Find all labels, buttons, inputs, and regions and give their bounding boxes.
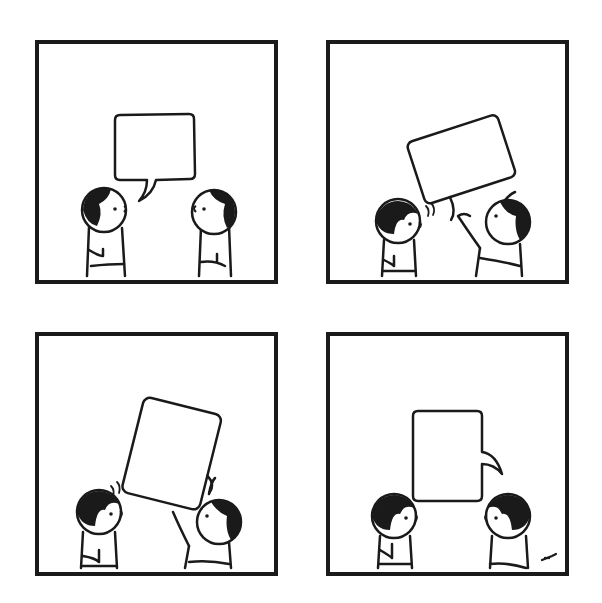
panel-4-art: artist signature mark (bottom-right of p… [330, 336, 565, 572]
right-child-head [197, 500, 241, 544]
left-child-figure [81, 532, 117, 568]
comic-panel-2: Right child grabs the empty speech bubbl… [326, 40, 569, 284]
signature-icon [542, 554, 556, 560]
raised-arm [458, 214, 480, 248]
right-child-head [486, 200, 530, 244]
speech-bubble-icon [121, 396, 229, 512]
left-child-head [372, 494, 417, 538]
left-child-figure [382, 240, 416, 276]
right-child-head [192, 190, 236, 234]
left-child-head [376, 199, 421, 243]
left-child-head [77, 490, 122, 534]
panel-3-art [39, 336, 274, 572]
comic-panel-3: Right child hoists the tilted bubble hig… [35, 332, 278, 576]
left-child-figure [87, 227, 125, 276]
panel-1-art [39, 44, 274, 280]
speech-bubble-icon [115, 114, 195, 201]
comic-panel-1: Two children face each other; left child… [35, 40, 278, 284]
left-child-figure [378, 536, 412, 568]
comic-panel-4: Empty bubble now upright with its tail p… [326, 332, 569, 576]
speech-bubble-icon [413, 411, 502, 501]
left-child-head [82, 188, 126, 232]
motion-lines-icon [426, 203, 434, 216]
right-child-figure [490, 536, 528, 568]
right-child-head [485, 494, 530, 538]
panel-2-art [330, 44, 565, 280]
